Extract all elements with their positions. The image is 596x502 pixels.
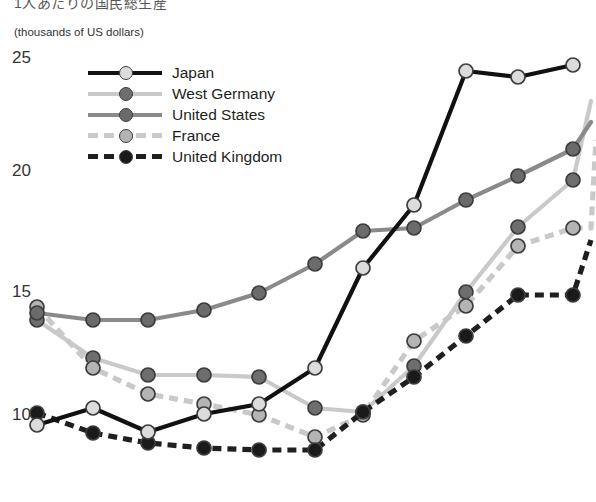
series-unitedstates — [30, 122, 591, 327]
series-unitedkingdom — [30, 240, 591, 457]
data-point[interactable] — [308, 430, 322, 444]
data-point[interactable] — [30, 306, 44, 320]
data-point[interactable] — [30, 418, 44, 432]
data-point[interactable] — [141, 425, 155, 439]
data-point[interactable] — [356, 405, 370, 419]
data-point[interactable] — [252, 397, 266, 411]
data-point[interactable] — [407, 198, 421, 212]
data-point[interactable] — [356, 224, 370, 238]
series-japan — [30, 58, 580, 439]
data-point[interactable] — [86, 313, 100, 327]
data-point[interactable] — [141, 387, 155, 401]
series-line — [37, 140, 596, 437]
data-point[interactable] — [566, 288, 580, 302]
data-point[interactable] — [86, 401, 100, 415]
data-point[interactable] — [407, 334, 421, 348]
data-point[interactable] — [197, 368, 211, 382]
data-point[interactable] — [141, 313, 155, 327]
chart-canvas: 1人あたりの国民総生産 (thousands of US dollars) 25… — [0, 0, 596, 502]
series-line — [37, 122, 591, 320]
data-point[interactable] — [566, 58, 580, 72]
data-point[interactable] — [252, 443, 266, 457]
data-point[interactable] — [566, 173, 580, 187]
data-point[interactable] — [308, 443, 322, 457]
data-point[interactable] — [197, 407, 211, 421]
data-point[interactable] — [511, 239, 525, 253]
data-point[interactable] — [356, 261, 370, 275]
data-point[interactable] — [197, 303, 211, 317]
data-point[interactable] — [86, 426, 100, 440]
data-point[interactable] — [459, 64, 473, 78]
data-point[interactable] — [511, 169, 525, 183]
data-point[interactable] — [511, 288, 525, 302]
data-point[interactable] — [407, 370, 421, 384]
data-point[interactable] — [141, 368, 155, 382]
data-point[interactable] — [252, 370, 266, 384]
data-point[interactable] — [308, 257, 322, 271]
data-point[interactable] — [566, 142, 580, 156]
data-point[interactable] — [566, 221, 580, 235]
data-point[interactable] — [252, 286, 266, 300]
data-point[interactable] — [407, 221, 421, 235]
data-point[interactable] — [459, 193, 473, 207]
data-point[interactable] — [197, 441, 211, 455]
data-point[interactable] — [308, 401, 322, 415]
data-point[interactable] — [459, 299, 473, 313]
data-point[interactable] — [459, 329, 473, 343]
data-point[interactable] — [308, 361, 322, 375]
data-point[interactable] — [511, 70, 525, 84]
line-chart-plot — [0, 0, 596, 502]
data-point[interactable] — [511, 220, 525, 234]
data-point[interactable] — [86, 361, 100, 375]
